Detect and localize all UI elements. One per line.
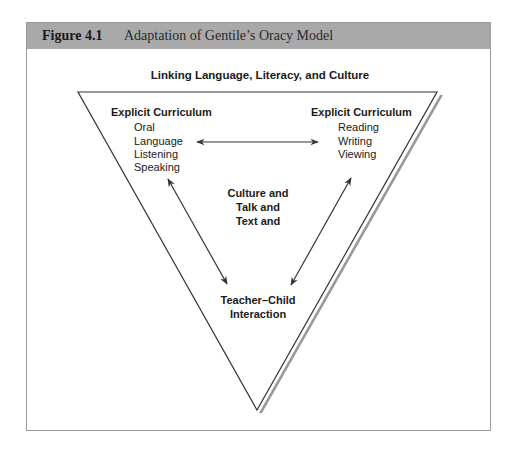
right-item-writing: Writing [338, 135, 372, 148]
left-item-speaking: Speaking [134, 161, 180, 174]
right-item-viewing: Viewing [338, 148, 376, 161]
bottom-line-interaction: Interaction [208, 308, 308, 321]
center-line-text: Text and [208, 215, 308, 228]
left-item-oral: Oral [134, 121, 155, 134]
left-item-language: Language [134, 135, 183, 148]
inverted-triangle [78, 92, 437, 410]
left-item-listening: Listening [134, 148, 178, 161]
diagram-title: Linking Language, Literacy, and Culture [110, 69, 410, 82]
bottom-line-teacher-child: Teacher–Child [208, 294, 308, 307]
right-item-reading: Reading [338, 121, 379, 134]
center-line-talk: Talk and [208, 201, 308, 214]
center-line-culture: Culture and [208, 187, 308, 200]
right-heading: Explicit Curriculum [311, 106, 412, 119]
left-heading: Explicit Curriculum [111, 106, 212, 119]
